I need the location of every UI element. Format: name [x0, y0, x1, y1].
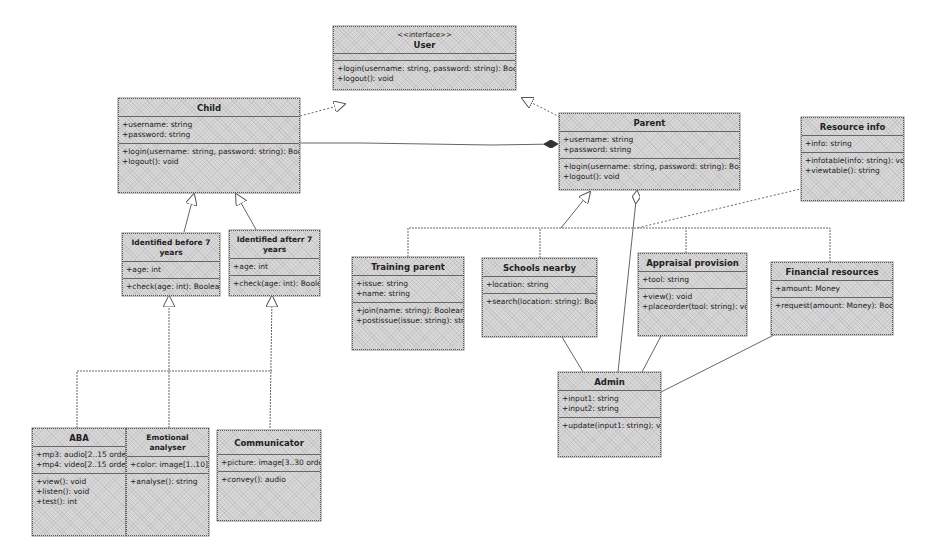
- class-name: Identified before 7 years: [123, 234, 219, 262]
- class-name: Parent: [560, 114, 739, 132]
- class-child[interactable]: Child +username: string +password: strin…: [118, 98, 300, 193]
- generalization-aba-before: [77, 296, 169, 428]
- attribute: +input2: string: [562, 404, 657, 414]
- attribute: +password: string: [122, 130, 296, 140]
- class-identified-after-7-years[interactable]: Identified afterr 7 years +age: int +che…: [229, 230, 320, 296]
- attributes-section: +issue: string +name: string: [353, 276, 463, 303]
- operation: +login(username: string, password: strin…: [337, 64, 512, 74]
- operations-section: +check(age: int): Boolean: [123, 279, 219, 295]
- class-name: ABA: [33, 429, 125, 447]
- attributes-section: +tool: string: [639, 272, 746, 289]
- operations-section: +view(): void +listen(): void +test(): i…: [33, 474, 125, 510]
- operation: +infotable(info: string): void: [805, 156, 900, 166]
- class-identified-before-7-years[interactable]: Identified before 7 years +age: int +che…: [122, 233, 220, 296]
- attribute: +color: image[1..10]: [130, 460, 205, 470]
- class-appraisal-provision[interactable]: Appraisal provision +tool: string +view(…: [638, 253, 747, 336]
- attribute: +password: string: [563, 145, 736, 155]
- attribute: +username: string: [563, 135, 736, 145]
- operation: +logout(): void: [122, 157, 296, 167]
- association-admin-financial: [661, 335, 774, 392]
- class-name: Training parent: [353, 258, 463, 276]
- class-name: User: [414, 40, 436, 50]
- attributes-section: +username: string +password: string: [560, 132, 739, 159]
- operations-section: +join(name: string): Boolean +postissue(…: [353, 303, 463, 329]
- attribute: +input1: string: [562, 394, 657, 404]
- generalization-after-child: [236, 194, 258, 233]
- attribute: +mp4: video[2..15 ordered]: [36, 460, 122, 470]
- class-schools-nearby[interactable]: Schools nearby +location: string +search…: [482, 258, 597, 337]
- operations-section: +check(age: int): Boolean: [230, 276, 319, 292]
- operation: +postissue(issue: string): string: [356, 316, 460, 326]
- class-name: Identified afterr 7 years: [230, 231, 319, 259]
- attribute: +picture: image[3..30 ordered]: [221, 458, 317, 468]
- attribute: +location: string: [486, 280, 593, 290]
- stereotype-label: <<interface>>: [336, 31, 513, 40]
- operation: +check(age: int): Boolean: [233, 279, 316, 289]
- operation: +check(age: int): Boolean: [126, 282, 216, 292]
- class-resource-info[interactable]: Resource info +info: string +infotable(i…: [801, 117, 904, 201]
- operations-section: +infotable(info: string): void +viewtabl…: [802, 153, 903, 179]
- attribute: +age: int: [126, 265, 216, 275]
- attributes-section: +color: image[1..10]: [127, 457, 208, 474]
- class-aba[interactable]: ABA +mp3: audio[2..15 ordered] +mp4: vid…: [32, 428, 126, 536]
- operation: +view(): void: [642, 292, 743, 302]
- attribute: +username: string: [122, 120, 296, 130]
- class-name: Schools nearby: [483, 259, 596, 277]
- class-communicator[interactable]: Communicator +picture: image[3..30 order…: [217, 430, 321, 521]
- class-financial-resources[interactable]: Financial resources +amount: Money +requ…: [771, 262, 893, 335]
- operation: +listen(): void: [36, 487, 122, 497]
- operations-section: +login(username: string, password: strin…: [560, 159, 739, 185]
- operations-section: +convey(): audio: [218, 472, 320, 488]
- operations-section: +analyse(): string: [127, 474, 208, 490]
- generalization-communicator-after: [270, 296, 272, 428]
- operations-section: +login(username: string, password: strin…: [334, 61, 515, 87]
- attribute: +mp3: audio[2..15 ordered]: [36, 450, 122, 460]
- operation: +logout(): void: [563, 172, 736, 182]
- operation: +login(username: string, password: strin…: [122, 147, 296, 157]
- class-admin[interactable]: Admin +input1: string +input2: string +u…: [558, 372, 661, 457]
- attribute: +name: string: [356, 289, 460, 299]
- operation: +join(name: string): Boolean: [356, 306, 460, 316]
- class-name: Child: [119, 99, 299, 117]
- operation: +request(amount: Money): Boolean: [775, 301, 889, 311]
- composition-child-parent: [300, 143, 557, 145]
- generalization-before-child: [184, 194, 194, 232]
- association-admin-schools: [562, 337, 583, 372]
- class-name: Resource info: [802, 118, 903, 136]
- operation: +search(location: string): Boolean: [486, 297, 593, 307]
- attributes-section: +amount: Money: [772, 281, 892, 298]
- uml-class-diagram: <<interface>> User +login(username: stri…: [0, 0, 925, 558]
- attribute: +info: string: [805, 139, 900, 149]
- association-admin-appraisal: [642, 336, 661, 372]
- operation: +view(): void: [36, 477, 122, 487]
- generalization-bus-parent: [561, 192, 590, 228]
- class-training-parent[interactable]: Training parent +issue: string +name: st…: [352, 257, 464, 350]
- operation: +placeorder(tool: string): void: [642, 302, 743, 312]
- class-name: Admin: [559, 373, 660, 391]
- operation: +convey(): audio: [221, 475, 317, 485]
- realization-parent-user: [522, 98, 560, 117]
- class-name: Emotional analyser: [127, 429, 208, 457]
- operations-section: +search(location: string): Boolean: [483, 294, 596, 330]
- operation: +login(username: string, password: strin…: [563, 162, 736, 172]
- operations-section: +update(input1: string): void: [559, 418, 660, 434]
- class-parent[interactable]: Parent +username: string +password: stri…: [559, 113, 740, 190]
- attributes-section: [334, 54, 515, 61]
- operation: +viewtable(): string: [805, 166, 900, 176]
- attributes-section: +age: int: [123, 262, 219, 279]
- attributes-section: +info: string: [802, 136, 903, 153]
- generalization-bus: [408, 228, 830, 262]
- attributes-section: +mp3: audio[2..15 ordered] +mp4: video[2…: [33, 447, 125, 474]
- operations-section: +login(username: string, password: strin…: [119, 144, 299, 170]
- attribute: +tool: string: [642, 275, 743, 285]
- class-emotional-analyser[interactable]: Emotional analyser +color: image[1..10] …: [126, 428, 209, 536]
- operations-section: +view(): void +placeorder(tool: string):…: [639, 289, 746, 315]
- aggregation-admin-parent: [618, 191, 637, 372]
- class-name: Communicator: [218, 431, 320, 455]
- operation: +analyse(): string: [130, 477, 205, 487]
- class-user[interactable]: <<interface>> User +login(username: stri…: [333, 26, 516, 90]
- attributes-section: +input1: string +input2: string: [559, 391, 660, 418]
- class-name: Financial resources: [772, 263, 892, 281]
- operation: +logout(): void: [337, 74, 512, 84]
- attributes-section: +age: int: [230, 259, 319, 276]
